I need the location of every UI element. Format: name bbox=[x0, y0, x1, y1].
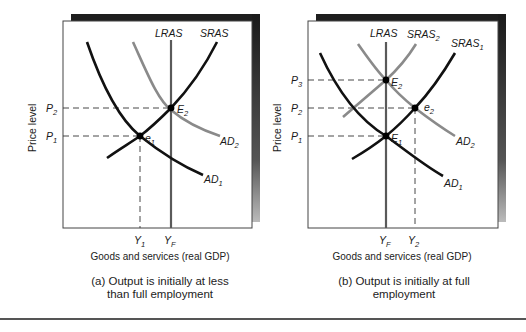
panel-b-p3-label: P3 bbox=[291, 74, 303, 89]
panel-b-caption-line1: (b) Output is initially at full bbox=[314, 275, 494, 288]
panel-b-lras-label: LRAS bbox=[370, 27, 397, 39]
panel-b-point-E1 bbox=[383, 133, 390, 140]
panel-a-yf-label: YF bbox=[164, 234, 176, 249]
panel-a-y1-label: Y1 bbox=[134, 234, 145, 249]
panel-a-caption: (a) Output is initially at less than ful… bbox=[70, 275, 250, 301]
panel-b-point-E2 bbox=[383, 77, 390, 84]
panel-a-point-e1 bbox=[137, 133, 144, 140]
panel-b-yf-label: YF bbox=[379, 234, 391, 249]
panel-a-ylabel: Price level bbox=[26, 104, 38, 152]
panel-b-plot-area bbox=[308, 21, 498, 228]
panel-a-sras-label: SRAS bbox=[200, 27, 229, 39]
panel-a: LRAS SRAS AD2 AD1 E2 e1 P2 P1 Y1 YF Pric… bbox=[26, 14, 260, 249]
panel-b: LRAS SRAS2 SRAS1 AD2 AD1 E2 e2 E1 P3 P2 … bbox=[271, 14, 506, 249]
panel-b-y2-label: Y2 bbox=[408, 234, 420, 249]
panel-b-xlabel: Goods and services (real GDP) bbox=[302, 251, 502, 262]
panel-b-point-e2 bbox=[412, 105, 419, 112]
panel-b-ylabel: Price level bbox=[271, 104, 283, 152]
panel-a-point-E2 bbox=[168, 105, 175, 112]
panel-a-xlabel: Goods and services (real GDP) bbox=[60, 251, 260, 262]
panel-a-lras-label: LRAS bbox=[155, 27, 182, 39]
panel-a-caption-line1: (a) Output is initially at less bbox=[70, 275, 250, 288]
panel-b-caption: (b) Output is initially at full employme… bbox=[314, 275, 494, 301]
panel-a-p1-label: P1 bbox=[46, 130, 57, 145]
bottom-rule bbox=[0, 318, 526, 320]
panel-b-shadow-right bbox=[498, 14, 506, 222]
panel-a-p2-label: P2 bbox=[46, 102, 58, 117]
panel-a-caption-line2: than full employment bbox=[70, 288, 250, 301]
panel-b-caption-line2: employment bbox=[314, 288, 494, 301]
panel-a-shadow-right bbox=[252, 14, 260, 222]
panel-b-p1-label: P1 bbox=[291, 130, 302, 145]
panel-b-p2-label: P2 bbox=[291, 102, 303, 117]
